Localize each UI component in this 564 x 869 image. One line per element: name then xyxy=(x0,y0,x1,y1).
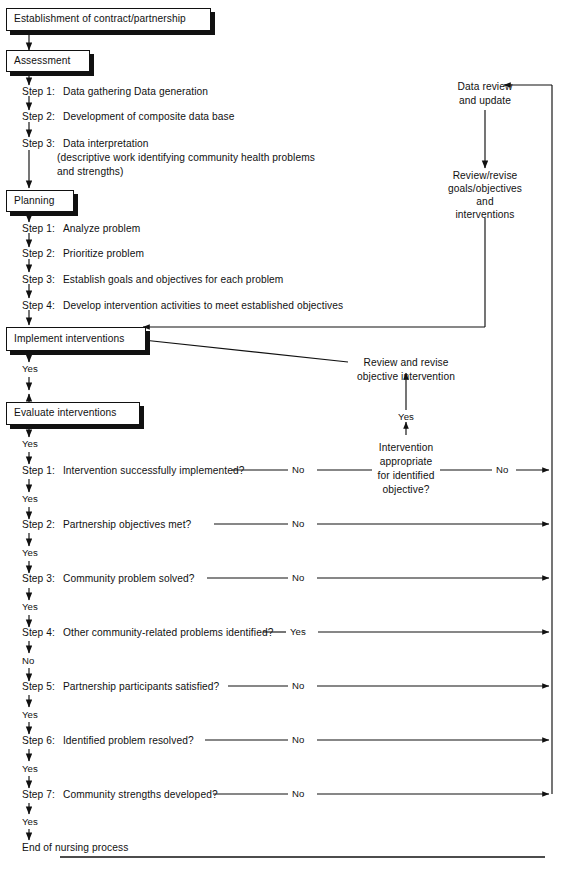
assessment-step-3: Step 3: Data interpretation xyxy=(22,137,149,150)
evaluation-step-4: Step 4: Other community-related problems… xyxy=(22,626,273,639)
step-text: Partnership objectives met? xyxy=(63,519,191,530)
label-after-step-1: Yes xyxy=(22,493,38,505)
label-after-step-7: Yes xyxy=(22,816,38,828)
decision-intervention-appropriate-line-2: appropriate xyxy=(380,455,433,468)
box-label: Establishment of contract/partnership xyxy=(14,14,186,24)
evaluation-step-1: Step 1: Intervention successfully implem… xyxy=(22,464,245,477)
box-implement-interventions[interactable]: Implement interventions xyxy=(6,327,146,351)
assessment-step-1: Step 1: Data gathering Data generation xyxy=(22,85,208,98)
step-text: Community strengths developed? xyxy=(63,789,218,800)
planning-step-4: Step 4: Develop intervention activities … xyxy=(22,299,343,312)
decision-intervention-appropriate-line-1: Intervention xyxy=(379,441,433,454)
box-assessment[interactable]: Assessment xyxy=(6,50,90,72)
planning-step-1: Step 1: Analyze problem xyxy=(22,222,140,235)
branch-label-step-2: No xyxy=(292,518,304,530)
box-establishment-of-contract-partnership[interactable]: Establishment of contract/partnership xyxy=(6,8,211,31)
feedback-review-revise-objective-line-2: objective intervention xyxy=(357,370,455,383)
evaluation-step-3: Step 3: Community problem solved? xyxy=(22,572,195,585)
branch-label-step-3: No xyxy=(292,572,304,584)
feedback-review-revise-goals-line-2: goals/objectives xyxy=(448,182,522,195)
assessment-step-2: Step 2: Development of composite data ba… xyxy=(22,110,235,123)
decision-branch-no: No xyxy=(496,464,508,476)
box-label: Planning xyxy=(14,196,54,206)
step-text: Identified problem resolved? xyxy=(63,735,194,746)
label-after-step-3: Yes xyxy=(22,601,38,613)
step-text: Develop intervention activities to meet … xyxy=(63,300,343,311)
feedback-data-review-line-2: and update xyxy=(459,94,511,107)
decision-intervention-appropriate-line-3: for identified xyxy=(378,469,435,482)
assessment-step-3-detail-line-2: and strengths) xyxy=(57,165,124,178)
step-number: Step 4: xyxy=(22,627,55,638)
step-number: Step 1: xyxy=(22,465,55,476)
step-text: Other community-related problems identif… xyxy=(63,627,274,638)
decision-intervention-appropriate-line-4: objective? xyxy=(383,483,430,496)
evaluation-step-2: Step 2: Partnership objectives met? xyxy=(22,518,191,531)
feedback-review-revise-goals-line-4: interventions xyxy=(455,208,514,221)
branch-label-step-5: No xyxy=(292,680,304,692)
step-number: Step 4: xyxy=(22,300,55,311)
step-text: Partnership participants satisfied? xyxy=(63,681,219,692)
step-number: Step 2: xyxy=(22,519,55,530)
branch-label-step-1: No xyxy=(292,464,304,476)
step-number: Step 6: xyxy=(22,735,55,746)
step-text: Development of composite data base xyxy=(63,111,235,122)
planning-step-2: Step 2: Prioritize problem xyxy=(22,247,144,260)
step-text: Data interpretation xyxy=(63,138,149,149)
step-number: Step 1: xyxy=(22,223,55,234)
feedback-review-revise-goals-line-1: Review/revise xyxy=(453,169,518,182)
feedback-review-revise-objective-line-1: Review and revise xyxy=(364,356,449,369)
step-number: Step 3: xyxy=(22,138,55,149)
box-evaluate-interventions[interactable]: Evaluate interventions xyxy=(6,402,140,425)
evaluation-step-6: Step 6: Identified problem resolved? xyxy=(22,734,194,747)
step-number: Step 7: xyxy=(22,789,55,800)
decision-branch-yes: Yes xyxy=(398,411,414,423)
evaluation-step-5: Step 5: Partnership participants satisfi… xyxy=(22,680,219,693)
step-text: Community problem solved? xyxy=(63,573,195,584)
step-number: Step 5: xyxy=(22,681,55,692)
step-number: Step 2: xyxy=(22,248,55,259)
branch-label-step-7: No xyxy=(292,788,304,800)
terminal-end-of-nursing-process: End of nursing process xyxy=(22,841,128,854)
label-after-step-4: No xyxy=(22,655,34,667)
branch-label-step-4: Yes xyxy=(290,626,306,638)
step-text: Intervention successfully implemented? xyxy=(63,465,245,476)
step-text: Data gathering Data generation xyxy=(63,86,208,97)
step-number: Step 3: xyxy=(22,274,55,285)
step-text: Analyze problem xyxy=(63,223,140,234)
evaluation-step-7: Step 7: Community strengths developed? xyxy=(22,788,218,801)
label-after-step-2: Yes xyxy=(22,547,38,559)
label-after-step-6: Yes xyxy=(22,763,38,775)
step-number: Step 2: xyxy=(22,111,55,122)
step-text: Establish goals and objectives for each … xyxy=(63,274,283,285)
feedback-data-review-line-1: Data review xyxy=(458,80,513,93)
planning-step-3: Step 3: Establish goals and objectives f… xyxy=(22,273,283,286)
box-label: Assessment xyxy=(14,56,70,66)
box-label: Implement interventions xyxy=(14,334,124,344)
assessment-step-3-detail-line-1: (descriptive work identifying community … xyxy=(57,151,315,164)
label-evaluate-yes: Yes xyxy=(22,438,38,450)
box-planning[interactable]: Planning xyxy=(6,190,74,212)
label-after-step-5: Yes xyxy=(22,709,38,721)
step-number: Step 3: xyxy=(22,573,55,584)
step-number: Step 1: xyxy=(22,86,55,97)
label-implement-yes: Yes xyxy=(22,363,38,375)
flowchart-canvas: Establishment of contract/partnership As… xyxy=(0,0,564,869)
step-text: Prioritize problem xyxy=(63,248,144,259)
feedback-review-revise-goals-line-3: and xyxy=(476,195,493,208)
box-label: Evaluate interventions xyxy=(14,408,116,418)
branch-label-step-6: No xyxy=(292,734,304,746)
